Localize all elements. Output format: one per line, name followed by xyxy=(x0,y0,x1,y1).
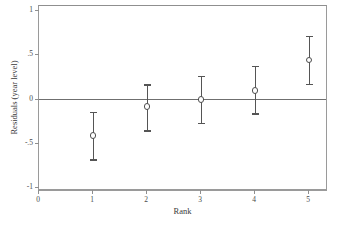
zero-reference-line xyxy=(39,99,326,100)
error-bar-cap-lower xyxy=(252,113,259,114)
y-tick-mark xyxy=(35,99,39,100)
error-bar-cap-lower xyxy=(306,84,313,85)
x-tick-mark xyxy=(146,190,147,194)
y-tick-label: 1 xyxy=(29,7,33,15)
x-tick-mark xyxy=(254,190,255,194)
point-marker xyxy=(144,103,150,109)
error-bar-cap-lower xyxy=(198,123,205,124)
point-marker xyxy=(198,96,204,102)
x-tick-label: 4 xyxy=(252,196,256,204)
plot-area: 1.50-.5-1 xyxy=(38,5,327,190)
error-bar-cap-upper xyxy=(144,84,151,85)
y-tick-label: -1 xyxy=(27,183,33,191)
x-tick-label: 5 xyxy=(306,196,310,204)
error-bar-cap-lower xyxy=(144,130,151,131)
y-tick-mark xyxy=(35,10,39,11)
x-tick-label: 3 xyxy=(198,196,202,204)
y-tick-mark xyxy=(35,54,39,55)
error-bar-cap-upper xyxy=(252,66,259,67)
error-bar-cap-lower xyxy=(90,159,97,160)
y-tick-label: -.5 xyxy=(25,139,33,147)
point-marker xyxy=(252,87,258,93)
x-tick-label: 1 xyxy=(90,196,94,204)
x-tick-label: 0 xyxy=(36,196,40,204)
x-axis-title: Rank xyxy=(38,206,327,216)
y-tick-mark xyxy=(35,143,39,144)
y-tick-label: 0 xyxy=(29,95,33,103)
x-tick-mark xyxy=(308,190,309,194)
y-tick-label: .5 xyxy=(27,51,33,59)
x-tick-mark xyxy=(200,190,201,194)
x-axis-line xyxy=(38,190,327,191)
x-tick-mark xyxy=(38,190,39,194)
error-bar-cap-upper xyxy=(306,36,313,37)
error-bar-cap-upper xyxy=(90,112,97,113)
x-tick-label: 2 xyxy=(144,196,148,204)
error-bar-cap-upper xyxy=(198,76,205,77)
y-axis-title: Residuals (year level) xyxy=(8,5,20,190)
x-tick-mark xyxy=(92,190,93,194)
residuals-scatter-figure: 1.50-.5-1 012345 Rank Residuals (year le… xyxy=(0,0,338,227)
point-marker xyxy=(306,57,312,63)
point-marker xyxy=(90,132,96,138)
y-tick-mark xyxy=(35,187,39,188)
